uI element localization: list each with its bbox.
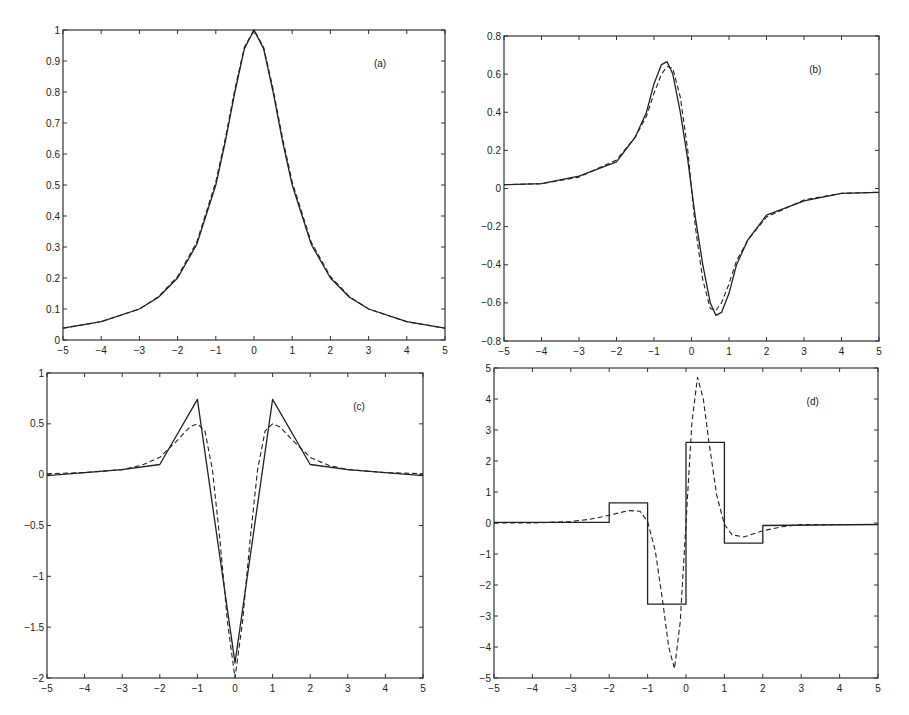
x-tick-label: −5 bbox=[498, 346, 510, 357]
y-tick-label: −2 bbox=[33, 673, 45, 684]
y-tick-label: −5 bbox=[480, 673, 492, 684]
y-tick-label: 0.4 bbox=[46, 211, 60, 222]
panel-label: (a) bbox=[374, 58, 386, 69]
series-dashed-line bbox=[63, 30, 445, 328]
series-solid-line bbox=[63, 30, 445, 328]
x-tick-label: −4 bbox=[527, 683, 539, 694]
y-tick-label: 0.8 bbox=[46, 87, 60, 98]
x-tick-label: 0 bbox=[683, 683, 689, 694]
y-tick-label: 0 bbox=[38, 469, 44, 480]
panel-label: (c) bbox=[353, 401, 365, 412]
figure: −5−4−3−2−101234500.10.20.30.40.50.60.70.… bbox=[0, 0, 909, 715]
x-tick-label: 2 bbox=[328, 345, 334, 356]
x-tick-label: 4 bbox=[837, 683, 843, 694]
y-tick-label: 0.2 bbox=[46, 273, 60, 284]
x-tick-label: 1 bbox=[726, 346, 732, 357]
y-tick-label: 0.9 bbox=[46, 56, 60, 67]
y-tick-label: −0.5 bbox=[24, 520, 44, 531]
y-tick-label: 1 bbox=[54, 25, 60, 36]
x-tick-label: −1 bbox=[192, 683, 204, 694]
x-tick-label: −1 bbox=[648, 346, 660, 357]
x-tick-label: −2 bbox=[154, 683, 166, 694]
axes-box bbox=[47, 373, 423, 678]
y-tick-label: 0.8 bbox=[487, 31, 501, 42]
x-tick-label: −3 bbox=[573, 346, 585, 357]
x-tick-label: −5 bbox=[488, 683, 500, 694]
y-tick-label: 5 bbox=[485, 363, 491, 374]
y-tick-label: 0.2 bbox=[487, 145, 501, 156]
panel-label: (b) bbox=[809, 64, 821, 75]
x-tick-label: 0 bbox=[251, 345, 257, 356]
y-tick-label: 0.3 bbox=[46, 242, 60, 253]
x-tick-label: −2 bbox=[611, 346, 623, 357]
x-tick-label: 2 bbox=[764, 346, 770, 357]
y-tick-label: 0.5 bbox=[30, 418, 44, 429]
x-tick-label: −5 bbox=[41, 683, 53, 694]
x-tick-label: 2 bbox=[307, 683, 313, 694]
y-tick-label: −4 bbox=[480, 642, 492, 653]
series-solid-line bbox=[494, 442, 878, 604]
y-tick-label: 0.6 bbox=[487, 69, 501, 80]
y-tick-label: −1.5 bbox=[24, 622, 44, 633]
panel-label: (d) bbox=[807, 396, 819, 407]
x-tick-label: 5 bbox=[876, 346, 882, 357]
chart-panel-c: −5−4−3−2−1012345−2−1.5−1−0.500.51(c) bbox=[24, 368, 426, 695]
x-tick-label: −2 bbox=[172, 345, 184, 356]
x-tick-label: −4 bbox=[79, 683, 91, 694]
y-tick-label: −0.8 bbox=[481, 336, 501, 347]
y-tick-label: 1 bbox=[485, 487, 491, 498]
y-tick-label: −1 bbox=[480, 549, 492, 560]
y-tick-label: −0.2 bbox=[481, 221, 501, 232]
x-tick-label: 1 bbox=[270, 683, 276, 694]
x-tick-label: 0 bbox=[689, 346, 695, 357]
y-tick-label: −0.4 bbox=[481, 259, 501, 270]
x-tick-label: 1 bbox=[722, 683, 728, 694]
y-tick-label: 0 bbox=[485, 518, 491, 529]
y-tick-label: 0.4 bbox=[487, 107, 501, 118]
x-tick-label: −1 bbox=[210, 345, 222, 356]
x-tick-label: 3 bbox=[345, 683, 351, 694]
y-tick-label: −2 bbox=[480, 580, 492, 591]
x-tick-label: −4 bbox=[536, 346, 548, 357]
y-tick-label: 0 bbox=[54, 335, 60, 346]
x-tick-label: −3 bbox=[116, 683, 128, 694]
y-tick-label: 1 bbox=[38, 368, 44, 379]
x-tick-label: 1 bbox=[289, 345, 295, 356]
x-tick-label: −5 bbox=[57, 345, 69, 356]
x-tick-label: 2 bbox=[760, 683, 766, 694]
x-tick-label: −3 bbox=[134, 345, 146, 356]
y-tick-label: 0.6 bbox=[46, 149, 60, 160]
series-dashed-line bbox=[504, 67, 879, 311]
y-tick-label: 4 bbox=[485, 394, 491, 405]
chart-panel-d: −5−4−3−2−1012345−5−4−3−2−1012345(d) bbox=[480, 363, 882, 695]
x-tick-label: −2 bbox=[603, 683, 615, 694]
x-tick-label: 3 bbox=[366, 345, 372, 356]
y-tick-label: 0.1 bbox=[46, 304, 60, 315]
y-tick-label: −1 bbox=[33, 571, 45, 582]
x-tick-label: −4 bbox=[95, 345, 107, 356]
x-tick-label: 4 bbox=[839, 346, 845, 357]
x-tick-label: 0 bbox=[232, 683, 238, 694]
chart-panel-b: −5−4−3−2−1012345−0.8−0.6−0.4−0.200.20.40… bbox=[481, 31, 882, 358]
x-tick-label: −1 bbox=[642, 683, 654, 694]
series-dashed-line bbox=[47, 424, 423, 678]
x-tick-label: −3 bbox=[565, 683, 577, 694]
y-tick-label: 3 bbox=[485, 425, 491, 436]
x-tick-label: 4 bbox=[404, 345, 410, 356]
series-solid-line bbox=[47, 399, 423, 662]
x-tick-label: 4 bbox=[383, 683, 389, 694]
x-tick-label: 3 bbox=[798, 683, 804, 694]
chart-panel-a: −5−4−3−2−101234500.10.20.30.40.50.60.70.… bbox=[46, 25, 448, 357]
y-tick-label: −3 bbox=[480, 611, 492, 622]
x-tick-label: 5 bbox=[442, 345, 448, 356]
axes-box bbox=[63, 30, 445, 340]
y-tick-label: 0 bbox=[495, 183, 501, 194]
y-tick-label: 0.7 bbox=[46, 118, 60, 129]
x-tick-label: 5 bbox=[420, 683, 426, 694]
x-tick-label: 3 bbox=[801, 346, 807, 357]
y-tick-label: 2 bbox=[485, 456, 491, 467]
x-tick-label: 5 bbox=[875, 683, 881, 694]
y-tick-label: 0.5 bbox=[46, 180, 60, 191]
y-tick-label: −0.6 bbox=[481, 297, 501, 308]
